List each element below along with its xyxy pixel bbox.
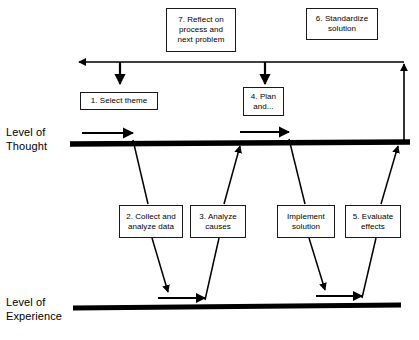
connector-step-5-to-thought: [381, 146, 398, 204]
connector-experience-to-step-3: [205, 238, 219, 300]
pdca-cycle-diagram: Level of Thought Level of Experience 7. …: [0, 0, 419, 340]
step-box-implement-solution[interactable]: Implement solution: [277, 205, 335, 238]
level-of-experience-label: Level of Experience: [6, 296, 62, 323]
step-box-select-theme[interactable]: 1. Select theme: [80, 92, 158, 110]
connector-thought-to-step-2: [133, 140, 148, 204]
connector-implement-to-experience: [309, 238, 325, 290]
step-box-reflect-on-process[interactable]: 7. Reflect on process and next problem: [166, 8, 236, 52]
step-box-collect-and-analyze-data[interactable]: 2. Collect and analyze data: [119, 205, 183, 238]
step-box-standardize-solution[interactable]: 6. Standardize solution: [306, 8, 378, 40]
connector-experience-to-step-5: [362, 238, 376, 298]
connector-step-2-to-experience: [152, 238, 168, 292]
connector-thought-to-implement: [289, 139, 305, 204]
step-box-evaluate-effects[interactable]: 5. Evaluate effects: [345, 205, 401, 238]
level-of-experience-bar: [73, 305, 401, 308]
step-box-plan-and[interactable]: 4. Plan and...: [243, 87, 284, 116]
connector-step-3-to-thought: [224, 146, 240, 204]
level-of-thought-label: Level of Thought: [6, 126, 47, 153]
step-box-analyze-causes[interactable]: 3. Analyze causes: [190, 205, 246, 238]
level-of-thought-bar: [70, 142, 410, 144]
